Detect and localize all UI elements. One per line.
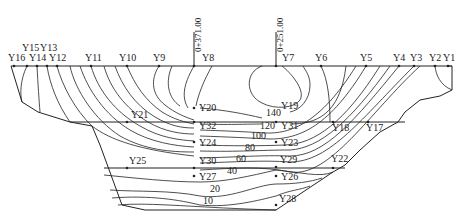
point-label-y12: Y12 — [49, 52, 66, 63]
point-label-y29: Y29 — [280, 154, 297, 165]
point-label-y17: Y17 — [366, 122, 383, 133]
point-label-y8: Y8 — [202, 52, 214, 63]
point-label-y27: Y27 — [199, 171, 216, 182]
point-label-y18: Y18 — [332, 122, 349, 133]
station-label-0: 0+371.00 — [193, 17, 203, 52]
point-label-y24: Y24 — [199, 137, 216, 148]
point-label-y6: Y6 — [315, 52, 327, 63]
point-label-y25: Y25 — [129, 155, 146, 166]
contour-label-20: 20 — [210, 183, 220, 194]
point-label-y21: Y21 — [131, 109, 148, 120]
point-label-y9: Y9 — [153, 52, 165, 63]
contour-label-10: 10 — [203, 195, 213, 206]
contour-label-80: 80 — [245, 142, 255, 153]
station-label-1: 0+251.00 — [275, 17, 285, 52]
point-label-y7: Y7 — [282, 52, 294, 63]
point-label-y31: Y31 — [281, 120, 298, 131]
contour-lines — [21, 66, 452, 210]
point-label-y11: Y11 — [85, 52, 102, 63]
point-label-y5: Y5 — [360, 52, 372, 63]
survey-point-dots — [13, 65, 450, 207]
point-label-y32: Y32 — [199, 120, 216, 131]
point-label-y3: Y3 — [410, 52, 422, 63]
section-outline — [11, 66, 452, 210]
contour-label-100: 100 — [251, 130, 266, 141]
diagram-canvas: 0+371.00 0+251.00 Y16 Y15 Y14 Y13 Y12 Y1… — [0, 0, 462, 220]
point-label-y23: Y23 — [281, 137, 298, 148]
point-label-y22: Y22 — [331, 153, 348, 164]
point-label-y19: Y19 — [281, 100, 298, 111]
contour-label-140: 140 — [266, 107, 281, 118]
point-label-y14: Y14 — [29, 52, 46, 63]
point-label-y4: Y4 — [393, 52, 405, 63]
point-label-y10: Y10 — [119, 52, 136, 63]
point-label-y16: Y16 — [8, 52, 25, 63]
point-label-y1: Y1 — [443, 52, 455, 63]
contour-label-60: 60 — [236, 153, 246, 164]
point-label-y30: Y30 — [199, 155, 216, 166]
point-label-y26: Y26 — [281, 171, 298, 182]
point-label-y2: Y2 — [429, 52, 441, 63]
point-label-y20: Y20 — [199, 102, 216, 113]
point-label-y28: Y28 — [279, 193, 296, 204]
contour-label-40: 40 — [227, 165, 237, 176]
contour-diagram: 0+371.00 0+251.00 Y16 Y15 Y14 Y13 Y12 Y1… — [0, 0, 462, 220]
